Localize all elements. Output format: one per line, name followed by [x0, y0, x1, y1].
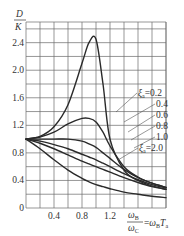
frequency-response-chart: D K 00.40.81.21.62.02.4 0.40.81.2 ξa=0.2…: [0, 0, 184, 236]
y-title-denominator: K: [14, 22, 22, 32]
y-tick-label: 2.0: [12, 65, 24, 75]
x-axis-title: ωB ωC =ωBTa: [127, 210, 168, 234]
y-tick-label: 0.4: [12, 175, 24, 185]
y-tick-label: 2.4: [12, 38, 24, 48]
y-tick-label: 0.8: [12, 148, 24, 158]
legend-xi-0.2: ξa=0.2: [138, 88, 162, 99]
y-tick-label: 0: [19, 203, 24, 213]
legend-0.6: 0.6: [156, 110, 168, 120]
x-tick-labels: 0.40.81.2: [48, 211, 116, 221]
x-title-rhs: =ωBTa: [144, 218, 168, 229]
y-title-numerator: D: [15, 9, 23, 19]
x-tick-label: 0.8: [76, 211, 88, 221]
x-title-denominator: ωC: [128, 223, 139, 234]
y-tick-label: 1.2: [12, 120, 24, 130]
x-tick-label: 0.4: [48, 211, 60, 221]
y-tick-labels: 00.40.81.21.62.02.4: [12, 38, 24, 213]
x-title-numerator: ωB: [128, 210, 139, 221]
x-tick-label: 1.2: [104, 211, 116, 221]
legend-1.0: 1.0: [156, 132, 168, 142]
legend-0.8: 0.8: [156, 121, 168, 131]
y-tick-label: 1.6: [12, 93, 24, 103]
legend-0.4: 0.4: [156, 99, 168, 109]
y-axis-title: D K: [14, 9, 26, 32]
legend-xi-2.0: ξa=2.0: [139, 143, 163, 154]
